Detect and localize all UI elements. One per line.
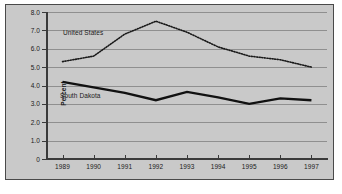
chart-figure: Percent 01.02.03.04.05.06.07.08.0 198919… bbox=[0, 0, 342, 194]
series-label-united-states: United States bbox=[63, 29, 103, 36]
series-layer bbox=[0, 0, 342, 194]
series-label-south-dakota: South Dakota bbox=[60, 92, 101, 99]
